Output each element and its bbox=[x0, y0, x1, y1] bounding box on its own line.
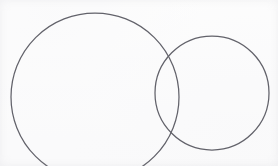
circles-figure: Line drawing of two overlapping circle o… bbox=[0, 0, 278, 166]
figure-canvas: Line drawing of two overlapping circle o… bbox=[0, 0, 278, 166]
